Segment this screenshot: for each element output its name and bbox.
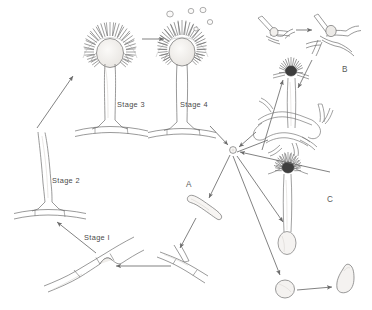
label-section-a: A (186, 180, 192, 189)
label-stage-4: Stage 4 (180, 100, 208, 109)
structure-round-conidium (276, 280, 295, 298)
life-cycle-figure: Stage 3 Stage 4 Stage 2 Stage I A B C (0, 0, 372, 310)
structure-central-spore-hub (230, 147, 237, 154)
label-stage-3: Stage 3 (117, 100, 145, 109)
vesicle-stage4 (169, 38, 195, 66)
label-stage-1: Stage I (84, 233, 110, 242)
vesicle-stage3 (97, 39, 124, 68)
diagram-canvas: Stage 3 Stage 4 Stage 2 Stage I A B C (0, 0, 372, 310)
label-section-c: C (327, 195, 333, 204)
label-stage-2: Stage 2 (52, 176, 80, 185)
swollen-base-c (278, 232, 296, 255)
label-section-b: B (342, 65, 348, 74)
